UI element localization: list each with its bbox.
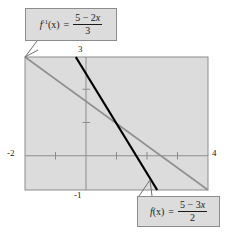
equation-function-denominator: 2 [178, 211, 207, 223]
equation-inverse-argument: (x) [48, 19, 60, 30]
equation-inverse-numerator: 5 − 2x [73, 13, 102, 24]
equation-inverse-equals: = [64, 20, 70, 30]
axis-label-x-min: -2 [7, 148, 15, 158]
callout-function-equation: f(x) = 5 − 3x 2 [137, 196, 220, 227]
equation-inverse-denominator: 3 [73, 24, 102, 36]
equation-function: f(x) = 5 − 3x 2 [150, 200, 207, 223]
figure-container: -2 4 3 -1 f-1(x) = 5 − 2x 3 f(x) = 5 − 3… [0, 0, 226, 235]
callout-leader-inverse [25, 41, 38, 57]
equation-function-numerator: 5 − 3x [178, 200, 207, 211]
equation-function-fraction: 5 − 3x 2 [178, 200, 207, 223]
equation-inverse: f-1(x) = 5 − 2x 3 [40, 13, 103, 36]
axis-label-y-max: 3 [78, 44, 83, 54]
equation-function-lhs: f(x) [150, 207, 164, 217]
equation-inverse-lhs: f-1(x) [40, 19, 60, 30]
equation-function-argument: (x) [153, 206, 165, 217]
callout-inverse-equation: f-1(x) = 5 − 2x 3 [25, 8, 117, 41]
axis-label-x-max: 4 [212, 148, 217, 158]
axis-label-y-min: -1 [74, 190, 82, 200]
equation-inverse-fraction: 5 − 2x 3 [73, 13, 102, 36]
equation-function-equals: = [168, 207, 174, 217]
